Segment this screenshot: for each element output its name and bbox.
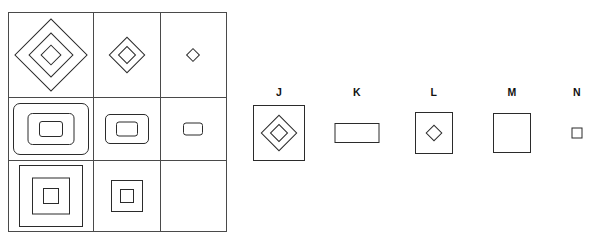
answer-option-l[interactable]: L [403,86,465,161]
option-j-figure [253,105,305,161]
nested-rounded-rects-large [11,99,91,159]
matrix-cell-1-1[interactable] [9,13,94,98]
matrix-cell-3-1[interactable] [9,161,94,232]
answer-option-n[interactable]: N [558,86,596,161]
option-label-m: M [507,86,516,98]
rounded-rect-inner [39,121,63,137]
option-label-n: N [573,86,581,98]
rectangle-outer [335,123,380,143]
option-label-k: K [353,86,361,98]
matrix-cell-1-3[interactable] [161,13,228,98]
square-outer [572,128,583,139]
square-inner [43,188,59,204]
nested-diamonds-large [9,13,93,97]
nested-squares-large [16,161,86,231]
answer-options: J K L M [248,86,596,176]
option-n-figure [558,105,596,161]
option-m-figure [486,105,538,161]
single-diamond-small [181,43,205,67]
option-label-j: J [276,86,282,98]
matrix-cell-1-2[interactable] [94,13,161,98]
matrix-cell-3-2[interactable] [94,161,161,232]
matrix-cell-2-3[interactable] [161,98,228,161]
nested-squares-medium [105,174,149,218]
option-k-figure [331,105,383,161]
answer-option-m[interactable]: M [481,86,543,161]
rounded-rect-inner [183,123,203,136]
square-inner [120,189,134,203]
single-rounded-rect-small [180,119,206,139]
option-l-figure [408,105,460,161]
rounded-rect-inner [116,122,138,137]
answer-option-k[interactable]: K [326,86,388,161]
diamond-inner [186,48,200,62]
option-label-l: L [431,86,438,98]
matrix-grid [8,12,227,232]
matrix-cell-3-3-blank[interactable] [161,161,228,232]
nested-diamonds-medium [102,30,152,80]
answer-option-j[interactable]: J [248,86,310,161]
matrix-puzzle: J K L M [0,0,601,232]
nested-rounded-rects-medium [101,109,153,149]
square-outer [493,113,531,153]
matrix-cell-2-2[interactable] [94,98,161,161]
matrix-cell-2-1[interactable] [9,98,94,161]
